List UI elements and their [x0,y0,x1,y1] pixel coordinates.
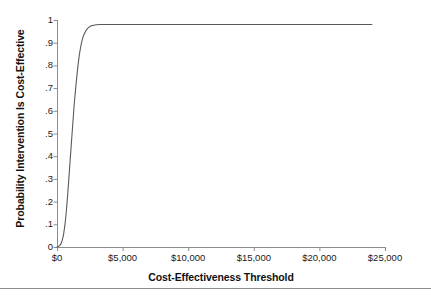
x-axis-title: Cost-Effectiveness Threshold [57,271,385,283]
y-axis-ticks [54,21,58,248]
bottom-rule [0,288,431,289]
x-axis-tick-label: $25,000 [350,252,420,263]
x-axis-tick-label: $20,000 [284,252,354,263]
x-axis-tick-label: $10,000 [153,252,223,263]
plot-area [0,0,431,295]
x-axis-tick-labels: $0$5,000$10,000$15,000$20,000$25,000 [0,252,431,266]
chart-figure: Probability Intervention Is Cost-Effecti… [0,0,431,295]
x-axis-tick-label: $5,000 [88,252,158,263]
series-line-cost-effectiveness [57,25,372,247]
x-axis-tick-label: $0 [22,252,92,263]
x-axis-tick-label: $15,000 [219,252,289,263]
